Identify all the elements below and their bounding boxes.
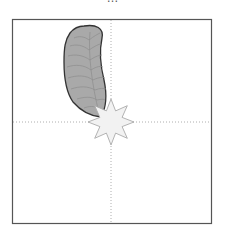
star-icon[interactable] xyxy=(88,99,134,145)
diagram-canvas xyxy=(0,0,225,232)
